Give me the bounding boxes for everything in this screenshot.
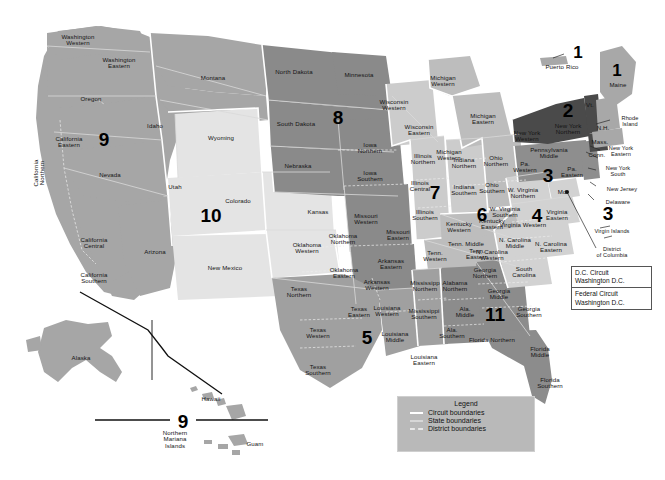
circuit-number-9: 9: [178, 412, 189, 431]
district-label: Indiana Northern: [452, 157, 477, 170]
district-label: South Carolina: [512, 266, 536, 279]
district-label: New York Western: [514, 130, 541, 143]
federal-circuit-entry: Federal Circuit Washington D.C.: [572, 287, 651, 308]
circuit-number-1: 1: [612, 62, 621, 79]
circuit-number-10: 10: [200, 206, 221, 225]
circuit-number-5: 5: [362, 328, 373, 347]
district-label: Wyoming: [208, 135, 234, 141]
district-label: Oklahoma Western: [293, 242, 322, 255]
callout-label: Rhode Island: [621, 116, 638, 128]
special-courts-box: D.C. Circuit Washington D.C. Federal Cir…: [571, 266, 652, 310]
district-label: Colorado: [225, 198, 251, 204]
district-label: Mississipp Northern: [410, 280, 439, 293]
district-label: Minnesota: [344, 72, 373, 78]
district-label: Mass.: [592, 139, 609, 145]
district-label: New Mexico: [208, 265, 242, 271]
dc-circuit-location: Washington D.C.: [575, 277, 648, 285]
district-label: Illinois Central: [410, 180, 431, 193]
circuit-number-2: 2: [563, 101, 574, 120]
district-label: New York Northern: [555, 123, 582, 136]
federal-circuit-name: Federal Circuit: [575, 290, 648, 298]
district-label: Louisiana Middle: [381, 331, 408, 344]
district-label: Puerto Rico: [545, 64, 578, 70]
district-label: Tenn. Western: [423, 250, 446, 263]
district-label: Alaska: [71, 355, 90, 361]
district-label: Louisiana Western: [373, 305, 400, 318]
district-label: Kansas: [307, 209, 328, 215]
district-label: Pennsylvania Middle: [530, 147, 568, 160]
district-label: N.H.: [597, 125, 610, 131]
district-label: Kentucky Western: [446, 221, 472, 234]
district-label: Oklahoma Eastern: [330, 267, 359, 280]
legend-item-label: State boundaries: [428, 417, 481, 424]
district-label: Utah: [168, 184, 181, 190]
district-label: Md.: [558, 189, 569, 195]
district-label: Missouri Western: [354, 213, 378, 226]
district-label: Georgia Northern: [473, 267, 498, 280]
circuit-number-7: 7: [430, 183, 441, 202]
district-label: Pa. Eastern: [561, 166, 583, 179]
district-label: N. Carolina Western: [476, 249, 508, 262]
legend-items: Circuit boundaries State boundaries Dist…: [398, 409, 534, 432]
district-label: Wisconsin Western: [380, 99, 409, 112]
district-label: W. Virginia Northern: [508, 187, 538, 200]
district-label: Pa. Western: [513, 161, 536, 174]
district-label: Montana: [201, 75, 226, 81]
district-label: Florida Middle: [530, 346, 549, 359]
district-label: Arkansas Western: [364, 279, 390, 292]
district-label: California Southern: [81, 272, 108, 285]
federal-circuit-location: Washington D.C.: [575, 299, 648, 307]
district-label: California Northern: [33, 160, 46, 187]
district-label: Ala. Middle: [456, 306, 475, 319]
judicial-circuits-map: .c1{fill:#a8a8a8;} .c2{fill:#4a4a4a;} .c…: [0, 0, 665, 480]
circuit-number-6: 6: [477, 205, 488, 224]
callout-label: District of Columbia: [596, 247, 627, 259]
legend: Legend Circuit boundaries State boundari…: [397, 396, 535, 452]
circuit-number-11: 11: [485, 305, 505, 324]
district-label: Florida Southern: [537, 377, 563, 390]
district-label: Vt.: [586, 102, 594, 108]
district-label: Washington Eastern: [102, 57, 135, 70]
district-label: W. Virginia Southern: [490, 206, 520, 219]
district-label: Texas Eastern: [348, 306, 370, 319]
legend-item-district: District boundaries: [410, 425, 534, 432]
callout-label: New York Eastern: [609, 146, 634, 158]
district-label: Maine: [609, 82, 626, 88]
legend-item-label: District boundaries: [428, 425, 486, 432]
district-label: Iowa Southern: [357, 170, 383, 183]
district-label: Georgia Southern: [516, 306, 542, 319]
circuit-number-3: 3: [543, 166, 554, 185]
territories: [26, 320, 248, 455]
district-label: Oregon: [80, 96, 101, 102]
dc-circuit-name: D.C. Circuit: [575, 269, 648, 277]
district-label: Washington Western: [61, 34, 94, 47]
district-label: South Dakota: [277, 121, 315, 127]
circuit-number-4: 4: [532, 206, 543, 225]
state-boundary-swatch-icon: [410, 420, 423, 422]
district-label: Missouri Eastern: [386, 229, 410, 242]
district-label: Michigan Western: [430, 75, 455, 88]
district-label: Conn.: [589, 152, 606, 158]
legend-title: Legend: [398, 400, 534, 407]
district-label: Ohio Southern: [479, 182, 505, 195]
district-label: Illinois Northern: [411, 153, 436, 166]
district-label: Guam: [246, 441, 263, 447]
circuit-number-9: 9: [99, 130, 110, 149]
district-label: Texas Northern: [287, 286, 312, 299]
district-label: Virginia Eastern: [546, 209, 568, 222]
district-label: Mississippi Southern: [409, 308, 440, 321]
circuit-number-1: 1: [573, 44, 582, 61]
district-label: Florida Northern: [469, 337, 515, 343]
district-label: Georgia Middle: [488, 288, 511, 301]
legend-item-circuit: Circuit boundaries: [410, 409, 534, 416]
district-label: Nebraska: [284, 163, 311, 169]
district-label: Hawaii: [201, 396, 220, 402]
circuit-number-3: 3: [603, 204, 614, 223]
district-label: Texas Western: [306, 327, 329, 340]
circuit-number-8: 8: [333, 108, 344, 127]
district-label: Ohio Northern: [484, 155, 509, 168]
district-label: Alabama Northern: [443, 280, 468, 293]
district-label: Indiana Southern: [451, 184, 477, 197]
district-label: Louisiana Eastern: [410, 354, 437, 367]
district-label: Texas Southern: [305, 364, 331, 377]
